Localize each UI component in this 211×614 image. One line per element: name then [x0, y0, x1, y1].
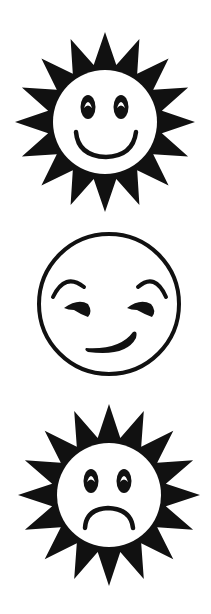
right-eye — [114, 95, 129, 119]
happy-sun-icon — [15, 32, 195, 212]
sun-face — [57, 443, 161, 547]
right-eye — [117, 469, 132, 493]
left-eye — [84, 469, 99, 493]
sad-sun-icon — [18, 404, 200, 586]
left-eye — [81, 95, 96, 119]
smirk-face-icon — [39, 234, 179, 374]
emoji-canvas — [0, 0, 211, 614]
face-outline — [39, 234, 179, 374]
